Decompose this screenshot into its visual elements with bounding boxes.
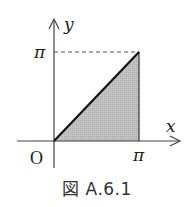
- origin-label: O: [30, 148, 43, 168]
- y-tick-label-pi: π: [33, 42, 46, 62]
- y-axis-label: y: [63, 14, 74, 34]
- figure-caption: 図 A.6.1: [0, 175, 194, 200]
- figure-a-6-1: y x π π O 図 A.6.1: [0, 0, 194, 207]
- x-tick-label-pi: π: [132, 145, 145, 165]
- x-axis-label: x: [166, 116, 176, 136]
